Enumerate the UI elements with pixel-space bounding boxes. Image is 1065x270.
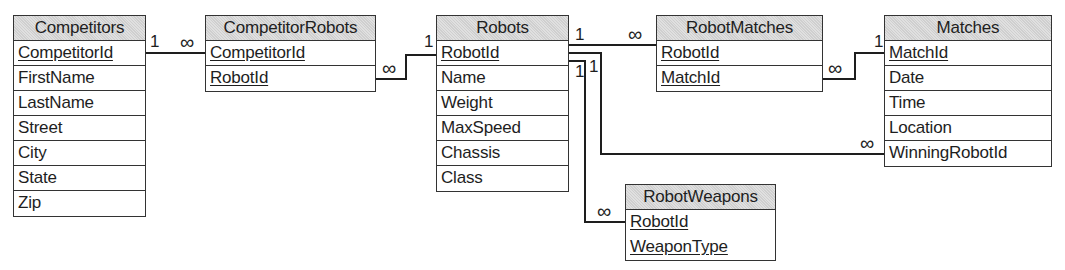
cardinality-one-label: 1 — [424, 33, 433, 50]
field: Chassis — [437, 141, 568, 166]
field: Zip — [14, 191, 145, 216]
table-competitorrobots[interactable]: CompetitorRobots CompetitorId RobotId — [205, 15, 376, 92]
cardinality-one-label: 1 — [575, 63, 584, 80]
table-title: RobotWeapons — [626, 185, 775, 210]
er-diagram: Competitors CompetitorId FirstName LastN… — [0, 0, 1065, 270]
field: Date — [885, 66, 1051, 91]
cardinality-many-label: ∞ — [180, 34, 194, 51]
cardinality-one-label: 1 — [589, 58, 598, 75]
cardinality-one-label: 1 — [874, 33, 883, 50]
field-primary-key: CompetitorId — [14, 41, 145, 66]
field-primary-key: RobotId — [626, 210, 775, 235]
field: LastName — [14, 91, 145, 116]
field: State — [14, 166, 145, 191]
table-matches[interactable]: Matches MatchId Date Time Location Winni… — [884, 15, 1052, 167]
field: WinningRobotId — [885, 141, 1051, 166]
table-robotweapons[interactable]: RobotWeapons RobotId WeaponType — [625, 184, 776, 261]
cardinality-one-label: 1 — [150, 33, 159, 50]
table-competitors[interactable]: Competitors CompetitorId FirstName LastN… — [13, 15, 146, 217]
table-title: Robots — [437, 16, 568, 41]
field-primary-key: MatchId — [657, 66, 822, 91]
link-robots-robotweapons — [568, 61, 626, 222]
field: Class — [437, 166, 568, 191]
field: Time — [885, 91, 1051, 116]
field-primary-key: RobotId — [657, 41, 822, 66]
cardinality-many-label: ∞ — [628, 26, 642, 43]
cardinality-one-label: 1 — [575, 26, 584, 43]
field-primary-key: WeaponType — [626, 235, 775, 260]
field: Name — [437, 66, 568, 91]
table-title: RobotMatches — [657, 16, 822, 41]
cardinality-many-label: ∞ — [828, 60, 842, 77]
cardinality-many-label: ∞ — [597, 203, 611, 220]
field-primary-key: MatchId — [885, 41, 1051, 66]
field: City — [14, 141, 145, 166]
field: MaxSpeed — [437, 116, 568, 141]
cardinality-many-label: ∞ — [860, 135, 874, 152]
field-primary-key: RobotId — [206, 66, 375, 91]
table-title: Matches — [885, 16, 1051, 41]
field: Location — [885, 116, 1051, 141]
table-robotmatches[interactable]: RobotMatches RobotId MatchId — [656, 15, 823, 92]
field: FirstName — [14, 66, 145, 91]
field-primary-key: CompetitorId — [206, 41, 375, 66]
field: Street — [14, 116, 145, 141]
field: Weight — [437, 91, 568, 116]
table-title: CompetitorRobots — [206, 16, 375, 41]
table-robots[interactable]: Robots RobotId Name Weight MaxSpeed Chas… — [436, 15, 569, 192]
table-title: Competitors — [14, 16, 145, 41]
cardinality-many-label: ∞ — [382, 60, 396, 77]
field-primary-key: RobotId — [437, 41, 568, 66]
